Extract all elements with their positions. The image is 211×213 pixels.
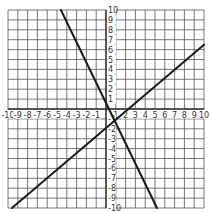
y-tick-label: -6 (108, 164, 116, 173)
y-tick-label: 9 (108, 16, 113, 25)
x-axis-tick-labels: -10-9-8-7-6-5-4-3-2-112345678910 (1, 110, 209, 120)
x-tick-label: 9 (192, 111, 197, 120)
y-tick-label: -9 (108, 194, 116, 203)
x-tick-label: 10 (199, 111, 209, 120)
coordinate-plane: -10-9-8-7-6-5-4-3-2-112345678910 1098765… (0, 0, 211, 213)
x-tick-label: -5 (53, 111, 61, 120)
y-tick-label: -8 (108, 184, 116, 193)
y-tick-label: 10 (108, 6, 118, 15)
y-tick-label: 1 (108, 95, 113, 104)
x-tick-label: -7 (33, 111, 41, 120)
y-tick-label: 8 (108, 26, 113, 35)
y-tick-label: 3 (108, 75, 113, 84)
y-tick-label: -7 (108, 174, 116, 183)
x-tick-label: -2 (82, 111, 90, 120)
x-tick-label: -3 (73, 111, 81, 120)
x-tick-label: -9 (14, 111, 22, 120)
y-tick-label: 7 (108, 36, 113, 45)
x-tick-label: 3 (133, 111, 138, 120)
x-tick-label: 4 (143, 111, 148, 120)
y-tick-label: -4 (108, 145, 116, 154)
x-tick-label: 8 (182, 111, 187, 120)
x-tick-label: 5 (152, 111, 157, 120)
x-tick-label: -8 (24, 111, 32, 120)
x-tick-label: 6 (162, 111, 167, 120)
y-tick-label: 5 (108, 56, 113, 65)
y-tick-label: 4 (108, 65, 113, 74)
y-tick-label: 2 (108, 85, 113, 94)
x-tick-label: -10 (1, 111, 14, 120)
x-tick-label: 7 (172, 111, 177, 120)
y-tick-label: -5 (108, 155, 116, 164)
y-tick-label: -3 (108, 135, 116, 144)
y-tick-label: 6 (108, 46, 113, 55)
x-tick-label: -4 (63, 111, 71, 120)
x-tick-label: -1 (92, 111, 100, 120)
y-tick-label: -10 (108, 204, 121, 213)
x-tick-label: -6 (43, 111, 51, 120)
